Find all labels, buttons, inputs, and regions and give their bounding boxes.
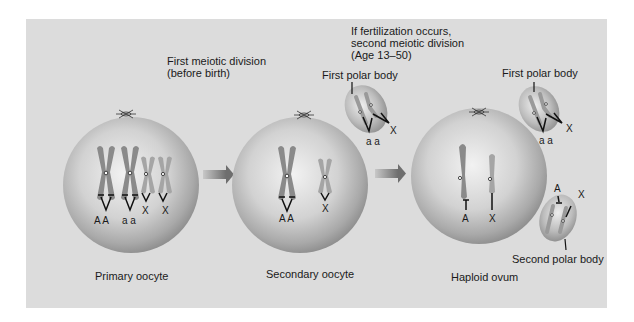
allele-label: a a — [366, 137, 380, 147]
allele-label: X — [566, 124, 573, 134]
meiosis-diagram: First meiotic division (before birth) If… — [0, 0, 634, 322]
second-polar-body-label: Second polar body — [512, 253, 604, 265]
allele-label: X — [390, 126, 397, 136]
secondary-oocyte-label: Secondary oocyte — [266, 268, 354, 280]
first-polar-body-label: First polar body — [502, 67, 578, 79]
allele-label: a a — [539, 136, 553, 146]
allele-label: X — [578, 190, 585, 200]
allele-label: A A — [279, 214, 294, 224]
allele-label: X — [142, 206, 149, 216]
allele-label: A — [554, 184, 561, 194]
first-polar-body-label: First polar body — [322, 69, 398, 81]
allele-label: X — [322, 204, 329, 214]
primary-oocyte-label: Primary oocyte — [95, 270, 168, 282]
allele-label: X — [489, 214, 496, 224]
haploid-ovum-label: Haploid ovum — [451, 271, 518, 283]
haploid-ovum-cell — [411, 108, 547, 244]
allele-label: a a — [122, 216, 136, 226]
second-division-label: If fertilization occurs, second meiotic … — [351, 25, 464, 61]
first-division-label: First meiotic division (before birth) — [167, 55, 266, 79]
allele-label: A — [462, 214, 469, 224]
allele-label: A A — [94, 216, 109, 226]
allele-label: X — [162, 206, 169, 216]
